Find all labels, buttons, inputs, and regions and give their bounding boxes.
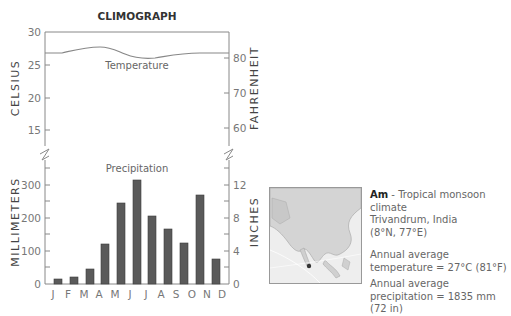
month-label: J: [143, 288, 147, 300]
precip-summary-value: precipitation = 1835 mm (72 in): [370, 291, 511, 316]
month-label: A: [157, 288, 165, 300]
fahrenheit-tick: 80: [233, 52, 246, 64]
mm-tick: 100: [21, 245, 41, 257]
temp-summary-value: temperature = 27°C (81°F): [370, 262, 511, 275]
inch-tick: 8: [233, 212, 240, 224]
celsius-tick: 20: [28, 92, 41, 104]
precipitation-bars: [54, 180, 220, 284]
precipitation-label: Precipitation: [106, 163, 169, 174]
location-marker: [307, 264, 311, 268]
climate-info: Am - Tropical monsoon climate Trivandrum…: [370, 189, 511, 316]
bar-sep: [180, 243, 188, 284]
celsius-axis-label: CELSIUS: [9, 60, 22, 117]
location-coords: (8°N, 77°E): [370, 227, 511, 240]
temperature-label: Temperature: [104, 60, 168, 71]
bar-jul: [148, 216, 156, 284]
mm-tick: 200: [21, 212, 41, 224]
month-label: J: [50, 288, 54, 300]
month-label: N: [203, 288, 211, 300]
millimeters-axis-label: MILLIMETERS: [9, 177, 22, 266]
inch-tick: 0: [233, 278, 240, 290]
month-label: M: [110, 288, 119, 300]
temperature-line: [45, 47, 229, 58]
celsius-tick: 25: [28, 59, 41, 71]
bar-feb: [70, 277, 78, 284]
location-name: Trivandrum, India: [370, 214, 511, 227]
month-labels: J F M A M J J A S O N D: [50, 288, 226, 300]
fahrenheit-tick: 70: [233, 87, 246, 99]
bar-aug: [164, 229, 172, 284]
month-label: S: [173, 288, 180, 300]
bar-mar: [86, 269, 94, 284]
month-label: F: [65, 288, 71, 300]
inches-axis-label: INCHES: [248, 197, 261, 247]
temperature-panel: 30 25 20 15 80 70 60 CELSIUS FAHRENHEIT …: [9, 26, 261, 160]
fahrenheit-axis-label: FAHRENHEIT: [248, 46, 261, 130]
month-label: J: [127, 288, 131, 300]
mm-tick: 0: [34, 278, 41, 290]
precipitation-panel: 300 200 100 0 12 8 4 0 MILLIMETERS INCHE…: [9, 160, 261, 300]
climate-type: - Tropical monsoon climate: [370, 189, 485, 213]
asia-map-icon: [270, 188, 361, 283]
month-label: D: [218, 288, 226, 300]
month-label: A: [95, 288, 103, 300]
bar-jun: [133, 180, 141, 284]
bar-apr: [101, 244, 109, 284]
chart-title: CLIMOGRAPH: [98, 10, 177, 22]
mm-tick: 300: [21, 179, 41, 191]
bar-dec: [212, 259, 220, 284]
bar-may: [117, 203, 125, 284]
locator-map: [269, 187, 362, 284]
month-label: O: [188, 288, 196, 300]
fahrenheit-tick: 60: [233, 122, 246, 134]
bar-jan: [54, 279, 62, 284]
celsius-tick: 15: [28, 124, 41, 136]
temp-summary-label: Annual average: [370, 249, 511, 262]
bar-oct: [196, 195, 204, 284]
inch-tick: 12: [233, 179, 246, 191]
month-label: M: [79, 288, 88, 300]
climate-code: Am: [370, 189, 388, 200]
celsius-tick: 30: [28, 26, 41, 38]
inch-tick: 4: [233, 245, 240, 257]
precip-summary-label: Annual average: [370, 278, 511, 291]
